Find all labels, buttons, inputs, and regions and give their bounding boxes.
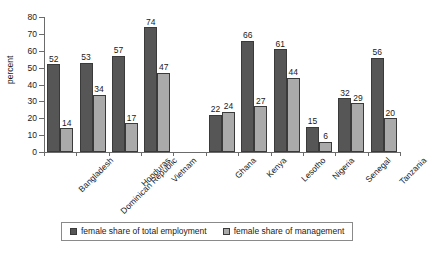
- bar-value-label: 14: [62, 119, 71, 128]
- bar: [144, 27, 157, 152]
- bar-value-label: 27: [256, 97, 265, 106]
- bar-group: 6144: [271, 17, 303, 152]
- y-axis-title: percent: [6, 56, 15, 84]
- bar-value-label: 56: [373, 48, 382, 57]
- bar-group: 5334: [76, 17, 108, 152]
- bar-value-label: 57: [114, 46, 123, 55]
- plot-area: 01020304050607080 5214533457177447222466…: [44, 17, 400, 152]
- y-axis-tick-label: 80: [28, 13, 37, 22]
- bar-slot: 52: [47, 17, 60, 152]
- bar-group: 156: [303, 17, 335, 152]
- bar-slot: 32: [338, 17, 351, 152]
- category-label: Tanzania: [398, 156, 428, 186]
- bar-slot: 27: [254, 17, 267, 152]
- bar-slot: 6: [319, 17, 332, 152]
- bar-value-label: 44: [288, 68, 297, 77]
- category-label: Nigeria: [331, 156, 356, 181]
- bar-slot: 14: [60, 17, 73, 152]
- category-labels: BangladeshDominican RepublicHondurasViet…: [44, 156, 400, 212]
- bar: [222, 112, 235, 153]
- bar: [319, 142, 332, 152]
- bar: [351, 103, 364, 152]
- legend-label: female share of total employment: [81, 227, 207, 236]
- bar: [60, 128, 73, 152]
- x-axis-tick: [400, 152, 401, 156]
- bar-slot: 24: [222, 17, 235, 152]
- chart-legend: female share of total employment female …: [61, 222, 353, 241]
- category-label: Kenya: [265, 156, 288, 179]
- bar-value-label: 29: [353, 94, 362, 103]
- bar-value-label: 22: [211, 105, 220, 114]
- y-axis-tick-label: 20: [28, 114, 37, 123]
- bar-value-label: 20: [386, 109, 395, 118]
- bar-value-label: 61: [275, 40, 284, 49]
- bar-slot: 47: [157, 17, 170, 152]
- bar-value-label: 47: [159, 63, 168, 72]
- bar: [93, 95, 106, 152]
- category-label: Ghana: [233, 156, 257, 180]
- bar-group: 2224: [206, 17, 238, 152]
- y-axis-tick-label: 70: [28, 30, 37, 39]
- y-axis-tick-label: 30: [28, 97, 37, 106]
- bar: [384, 118, 397, 152]
- bar-slot: 53: [80, 17, 93, 152]
- bar: [241, 41, 254, 152]
- bar-value-label: 15: [308, 117, 317, 126]
- bar-value-label: 6: [323, 132, 328, 141]
- bar-value-label: 17: [127, 114, 136, 123]
- bar-value-label: 66: [243, 31, 252, 40]
- bar: [254, 106, 267, 152]
- bar-value-label: 32: [340, 89, 349, 98]
- bar-slot: 57: [112, 17, 125, 152]
- bar-slot: 66: [241, 17, 254, 152]
- bar-slot: 29: [351, 17, 364, 152]
- legend-item-total-employment: female share of total employment: [70, 227, 207, 236]
- bar-value-label: 52: [49, 55, 58, 64]
- bar-group: 5214: [44, 17, 76, 152]
- bar-slot: 44: [287, 17, 300, 152]
- bar-group: 7447: [141, 17, 173, 152]
- dark-gray-swatch-icon: [70, 228, 77, 235]
- bar-group: 5620: [368, 17, 400, 152]
- bar-slot: 74: [144, 17, 157, 152]
- bar: [112, 56, 125, 152]
- bar-slot: 56: [371, 17, 384, 152]
- bar-slot: 20: [384, 17, 397, 152]
- bar: [306, 127, 319, 152]
- y-axis-tick-label: 0: [32, 148, 37, 157]
- bar: [125, 123, 138, 152]
- bar-group: 6627: [238, 17, 270, 152]
- bar-value-label: 53: [81, 53, 90, 62]
- bar: [371, 58, 384, 153]
- legend-item-management: female share of management: [223, 227, 345, 236]
- light-gray-swatch-icon: [223, 228, 230, 235]
- y-axis-tick-label: 40: [28, 80, 37, 89]
- bar-slot: 61: [274, 17, 287, 152]
- bar-group-spacer: [173, 17, 205, 152]
- bar-slot: [190, 17, 203, 152]
- bar-slot: 17: [125, 17, 138, 152]
- y-axis-tick-label: 60: [28, 47, 37, 56]
- bar: [338, 98, 351, 152]
- category-label: Lesotho: [300, 156, 327, 183]
- bar-groups: 521453345717744722246627614415632295620: [44, 17, 400, 152]
- bar-slot: [177, 17, 190, 152]
- y-axis-tick-label: 50: [28, 63, 37, 72]
- bar-slot: 34: [93, 17, 106, 152]
- category-label: Bangladesh: [77, 156, 115, 194]
- bar: [287, 78, 300, 152]
- y-axis-tick-label: 10: [28, 131, 37, 140]
- bar: [157, 73, 170, 152]
- bar: [47, 64, 60, 152]
- legend-label: female share of management: [234, 227, 345, 236]
- bar: [274, 49, 287, 152]
- category-label: Senegal: [365, 156, 393, 184]
- bar: [80, 63, 93, 152]
- bar-value-label: 34: [94, 85, 103, 94]
- bar: [209, 115, 222, 152]
- bar-slot: 22: [209, 17, 222, 152]
- bar-value-label: 24: [224, 102, 233, 111]
- bar-slot: 15: [306, 17, 319, 152]
- bar-group: 3229: [335, 17, 367, 152]
